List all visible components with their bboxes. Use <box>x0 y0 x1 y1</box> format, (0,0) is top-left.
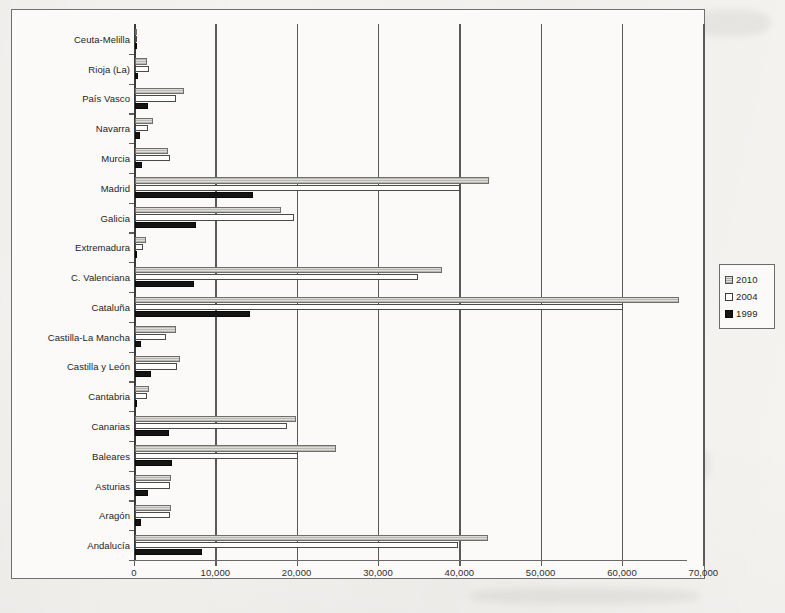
bar-2004-extremadura <box>135 244 143 250</box>
bar-2010-rioja-la- <box>135 58 147 64</box>
bar-1999-castilla-la-mancha <box>135 341 141 347</box>
bar-2004-baleares <box>135 453 298 459</box>
category-label: Aragón <box>99 510 130 521</box>
category-label: Asturias <box>95 480 130 491</box>
bar-2004-pa-s-vasco <box>135 95 176 101</box>
bar-2010-cantabria <box>135 386 149 392</box>
bar-1999-ceuta-melilla <box>135 43 137 49</box>
bar-1999-madrid <box>135 192 253 198</box>
bar-2004-navarra <box>135 125 148 131</box>
category-axis-tick <box>129 381 134 382</box>
bar-2004-canarias <box>135 423 287 429</box>
bar-1999-pa-s-vasco <box>135 103 148 109</box>
axis-tick <box>703 560 704 566</box>
category-label: Baleares <box>92 450 130 461</box>
legend-label: 2010 <box>736 274 758 285</box>
bar-2004-castilla-y-le-n <box>135 363 177 369</box>
bar-2004-madrid <box>135 185 460 191</box>
category-label: Murcia <box>101 153 130 164</box>
category-axis-tick <box>129 173 134 174</box>
bar-2010-c-valenciana <box>135 267 442 273</box>
bar-2010-canarias <box>135 416 296 422</box>
bar-1999-c-valenciana <box>135 281 194 287</box>
legend-item-1999[interactable]: 1999 <box>725 305 770 322</box>
gridline <box>459 24 460 560</box>
scanned-page-background: Ceuta-MelillaRioja (La)País VascoNavarra… <box>0 0 785 613</box>
bar-2010-asturias <box>135 475 171 481</box>
bar-1999-extremadura <box>135 251 137 257</box>
category-axis-tick <box>129 113 134 114</box>
category-axis-tick <box>129 203 134 204</box>
gridline <box>378 24 379 560</box>
bar-2010-arag-n <box>135 505 171 511</box>
bar-1999-baleares <box>135 460 172 466</box>
legend-label: 1999 <box>736 308 758 319</box>
legend-item-2010[interactable]: 2010 <box>725 271 770 288</box>
category-label: Madrid <box>101 182 130 193</box>
category-label: Galicia <box>101 212 130 223</box>
category-axis-tick <box>129 560 134 561</box>
category-label: Canarias <box>92 421 130 432</box>
x-axis-tick-label: 70,000 <box>688 567 718 578</box>
bar-2004-ceuta-melilla <box>135 36 137 42</box>
category-axis-tick <box>129 352 134 353</box>
category-label: C. Valenciana <box>71 272 130 283</box>
chart-frame: Ceuta-MelillaRioja (La)País VascoNavarra… <box>11 9 705 579</box>
x-axis-tick-label: 30,000 <box>363 567 393 578</box>
category-label: Ceuta-Melilla <box>74 33 130 44</box>
category-axis-tick <box>129 262 134 263</box>
x-axis-tick-label: 60,000 <box>607 567 637 578</box>
bar-1999-canarias <box>135 430 169 436</box>
bar-1999-catalu-a <box>135 311 250 317</box>
bar-2010-extremadura <box>135 237 146 243</box>
bar-1999-galicia <box>135 222 196 228</box>
category-label: Castilla y León <box>67 361 130 372</box>
category-axis-labels: Ceuta-MelillaRioja (La)País VascoNavarra… <box>22 24 130 560</box>
bar-2004-castilla-la-mancha <box>135 334 166 340</box>
bar-2010-ceuta-melilla <box>135 29 137 35</box>
category-label: Cantabria <box>88 391 130 402</box>
black-swatch-icon <box>725 310 733 318</box>
category-axis-tick <box>129 54 134 55</box>
bar-2004-rioja-la- <box>135 66 149 72</box>
bar-1999-murcia <box>135 162 142 168</box>
gridline <box>703 24 704 560</box>
legend-item-2004[interactable]: 2004 <box>725 288 770 305</box>
category-label: Extremadura <box>75 242 130 253</box>
bar-2010-castilla-la-mancha <box>135 326 176 332</box>
bar-1999-cantabria <box>135 400 137 406</box>
bar-2004-asturias <box>135 482 170 488</box>
bar-2010-castilla-y-le-n <box>135 356 180 362</box>
bar-2010-pa-s-vasco <box>135 88 184 94</box>
category-axis-tick <box>129 292 134 293</box>
gridline <box>297 24 298 560</box>
x-axis-tick-label: 20,000 <box>282 567 312 578</box>
bar-2004-catalu-a <box>135 304 623 310</box>
category-axis-tick <box>129 322 134 323</box>
category-label: Castilla-La Mancha <box>48 331 130 342</box>
bar-2004-galicia <box>135 214 294 220</box>
category-axis-tick <box>129 143 134 144</box>
x-axis-line <box>134 560 687 561</box>
x-axis-tick-label: 50,000 <box>526 567 556 578</box>
bar-1999-andaluc-a <box>135 549 202 555</box>
bar-1999-navarra <box>135 132 140 138</box>
bar-2010-andaluc-a <box>135 535 488 541</box>
category-label: Andalucía <box>87 540 130 551</box>
category-label: Cataluña <box>92 301 130 312</box>
bar-2010-catalu-a <box>135 297 679 303</box>
category-label: País Vasco <box>82 93 130 104</box>
category-label: Navarra <box>96 123 130 134</box>
bar-2004-cantabria <box>135 393 147 399</box>
scan-smudge <box>470 588 700 604</box>
bar-1999-rioja-la- <box>135 73 138 79</box>
hatched-gray-swatch-icon <box>725 276 733 284</box>
bar-2004-arag-n <box>135 512 170 518</box>
gridline <box>541 24 542 560</box>
bar-2004-murcia <box>135 155 170 161</box>
legend-label: 2004 <box>736 291 758 302</box>
bar-2004-c-valenciana <box>135 274 418 280</box>
category-axis-tick <box>129 530 134 531</box>
plot-area <box>134 24 679 560</box>
category-axis-tick <box>129 441 134 442</box>
